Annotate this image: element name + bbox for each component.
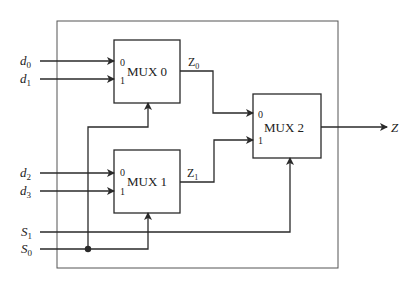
d0-label: d0	[20, 53, 32, 70]
z-output-label: Z	[391, 120, 399, 135]
z0-label: Z0	[188, 55, 199, 71]
d1-label: d1	[20, 71, 31, 88]
s0-label: S0	[21, 241, 33, 258]
mux-2-in1-label: 1	[258, 135, 263, 146]
z0-wire	[180, 71, 253, 113]
mux-2-label: MUX 2	[264, 120, 304, 135]
mux-0-in1-label: 1	[120, 75, 125, 86]
s0-wire-mux1	[40, 213, 148, 249]
s1-label: S1	[21, 224, 32, 241]
d2-label: d2	[20, 165, 31, 182]
mux-2-in0-label: 0	[258, 109, 263, 120]
mux-1-label: MUX 1	[127, 174, 167, 189]
mux-1-block: 0 1 MUX 1	[114, 150, 180, 213]
mux-0-block: 0 1 MUX 0	[114, 40, 180, 103]
s0-junction-dot	[85, 246, 91, 252]
mux-2-block: 0 1 MUX 2	[253, 94, 321, 158]
mux-0-in0-label: 0	[120, 57, 125, 68]
mux-1-in1-label: 1	[120, 186, 125, 197]
mux-0-label: MUX 0	[127, 64, 167, 79]
mux-1-in0-label: 0	[120, 167, 125, 178]
z1-label: Z1	[187, 166, 198, 182]
mux-diagram: 0 1 MUX 0 0 1 MUX 1 0 1 MUX 2 d0 d1 d2 d…	[0, 0, 408, 284]
d3-label: d3	[20, 183, 32, 200]
